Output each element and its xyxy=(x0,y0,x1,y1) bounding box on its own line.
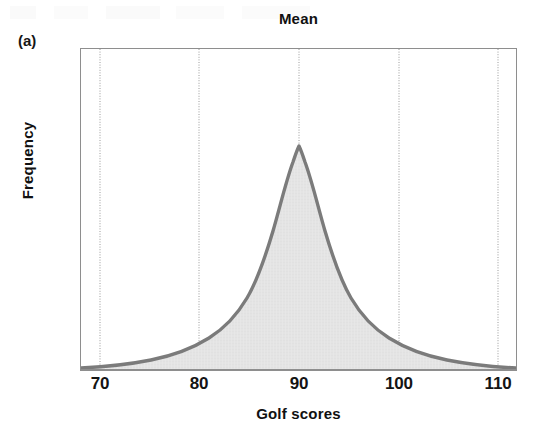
x-axis-label: Golf scores xyxy=(80,405,517,422)
plot-area xyxy=(80,48,517,371)
x-tick-label-90: 90 xyxy=(269,374,329,394)
chart-title: Mean xyxy=(80,10,517,27)
figure-panel: (a) Mean Frequency xyxy=(0,0,543,438)
distribution-plot-svg xyxy=(81,49,516,370)
x-tick-label-100: 100 xyxy=(369,374,429,394)
panel-label: (a) xyxy=(18,32,36,49)
distribution-area-fill xyxy=(81,146,516,370)
x-tick-label-110: 110 xyxy=(468,374,528,394)
y-axis-label: Frequency xyxy=(19,101,36,221)
x-tick-label-70: 70 xyxy=(70,374,130,394)
x-axis-ticks: 70 80 90 100 110 xyxy=(0,374,543,400)
x-tick-label-80: 80 xyxy=(169,374,229,394)
